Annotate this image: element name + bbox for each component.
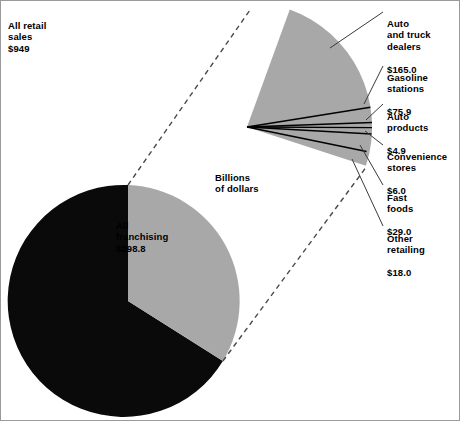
label-units-text: Billions of dollars <box>215 172 295 195</box>
label-all-franchising-text: All franchising $298.8 <box>116 220 202 255</box>
callout-fast-foods-label: Fast foods <box>387 192 459 215</box>
callout-other-retailing: Other retailing $18.0 <box>387 221 459 290</box>
label-units-billions-of-dollars: Billions of dollars <box>215 160 295 206</box>
label-all-franchising: All franchising $298.8 <box>116 208 202 266</box>
label-all-retail-sales-text: All retail sales $949 <box>8 20 98 55</box>
callout-auto-and-truck-dealers-label: Auto and truck dealers <box>387 18 459 53</box>
callout-gasoline-stations-label: Gasoline stations <box>387 72 459 95</box>
callout-convenience-stores-label: Convenience stores <box>387 151 461 174</box>
callout-other-retailing-label: Other retailing <box>387 233 459 256</box>
label-all-retail-sales: All retail sales $949 <box>8 8 98 66</box>
callout-auto-products-label: Auto products <box>387 111 459 134</box>
callout-other-retailing-value: $18.0 <box>387 267 459 279</box>
